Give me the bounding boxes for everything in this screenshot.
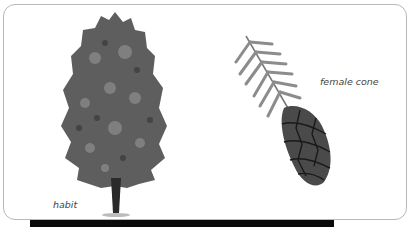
female-cone-label: female cone xyxy=(320,76,379,87)
tree-habit-illustration xyxy=(55,8,175,220)
habit-label: habit xyxy=(53,199,77,210)
female-cone-illustration xyxy=(276,104,336,188)
bottom-bar xyxy=(30,220,334,227)
